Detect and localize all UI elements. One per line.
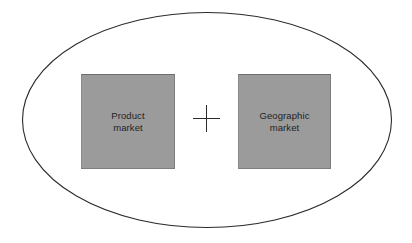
product-market-box: Product market — [81, 74, 175, 169]
relevant-market-diagram: Product market Geographic market — [0, 0, 412, 243]
geographic-market-label: Geographic market — [259, 110, 309, 134]
geographic-market-box: Geographic market — [238, 74, 331, 169]
plus-vertical-bar — [206, 105, 207, 132]
product-market-label: Product market — [111, 110, 144, 134]
plus-sign-icon — [193, 105, 220, 132]
